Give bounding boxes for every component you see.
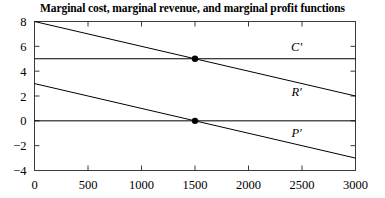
series-label-Rprime: R′	[290, 85, 302, 99]
series-label-Cprime: C′	[291, 40, 302, 54]
plot-area: −4−202468 050010001500200025003000 C′R′P…	[0, 0, 385, 198]
data-series-lines	[35, 22, 356, 159]
x-axis-tick-labels: 050010001500200025003000	[31, 178, 368, 192]
x-tick-label: 0	[31, 178, 37, 192]
y-tick-label: 0	[20, 114, 26, 128]
figure: Marginal cost, marginal revenue, and mar…	[0, 0, 385, 198]
x-tick-label: 1500	[183, 178, 208, 192]
y-tick-label: 4	[20, 65, 27, 79]
y-tick-label: −4	[13, 164, 27, 178]
y-axis-tick-labels: −4−202468	[13, 15, 27, 178]
y-tick-label: −2	[13, 139, 26, 153]
x-tick-label: 2000	[236, 178, 261, 192]
x-tick-label: 3000	[343, 178, 368, 192]
x-tick-label: 500	[79, 178, 98, 192]
series-inline-labels: C′R′P′	[290, 40, 302, 140]
y-tick-label: 6	[20, 40, 26, 54]
data-point-markers	[192, 56, 198, 124]
x-tick-label: 1000	[129, 178, 154, 192]
data-point-marker	[192, 118, 198, 124]
x-axis-ticks	[88, 22, 302, 171]
y-tick-label: 2	[20, 90, 26, 104]
y-tick-label: 8	[20, 15, 26, 29]
axes-frame	[35, 22, 356, 171]
series-label-Pprime: P′	[290, 126, 302, 140]
x-tick-label: 2500	[290, 178, 315, 192]
data-point-marker	[192, 56, 198, 62]
